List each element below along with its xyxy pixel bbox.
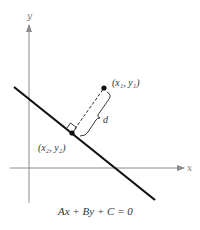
distance-label: d — [103, 114, 109, 125]
perpendicular-dashed-segment — [72, 88, 104, 133]
line-ax-by-c — [14, 87, 155, 200]
point-2-marker — [69, 130, 74, 135]
point-1-label: (x₁, y₁) — [112, 77, 140, 89]
y-axis-label: y — [26, 11, 33, 21]
distance-point-to-line-diagram: y x (x₁, y₁) (x₂, y₂) d Ax + By + C = 0 — [0, 0, 200, 230]
x-axis-label: x — [187, 163, 192, 173]
point-2-label: (x₂, y₂) — [38, 142, 66, 154]
line-equation: Ax + By + C = 0 — [57, 205, 133, 217]
point-1-marker — [101, 85, 106, 90]
